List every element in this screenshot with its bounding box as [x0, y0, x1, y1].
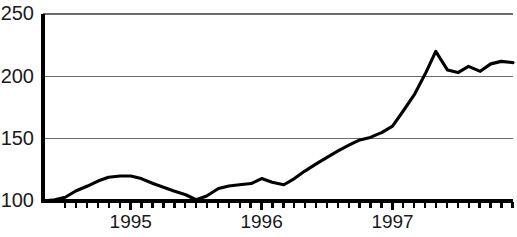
x-tick-label: 1996 — [240, 211, 282, 232]
x-axis-ticks — [65, 202, 512, 210]
data-series-index — [43, 51, 513, 201]
axes — [41, 14, 513, 202]
x-tick-label: 1995 — [110, 211, 152, 232]
x-axis-labels: 199519961997 — [110, 211, 414, 232]
chart-container: 100150200250199519961997 — [0, 0, 517, 237]
x-tick-label: 1997 — [371, 211, 413, 232]
y-tick-label: 100 — [1, 189, 34, 211]
gridlines — [43, 14, 513, 139]
y-tick-label: 200 — [1, 65, 34, 87]
y-axis-labels: 100150200250 — [1, 2, 34, 211]
line-chart: 100150200250199519961997 — [0, 0, 517, 237]
y-tick-label: 150 — [1, 127, 34, 149]
y-tick-label: 250 — [1, 2, 34, 24]
